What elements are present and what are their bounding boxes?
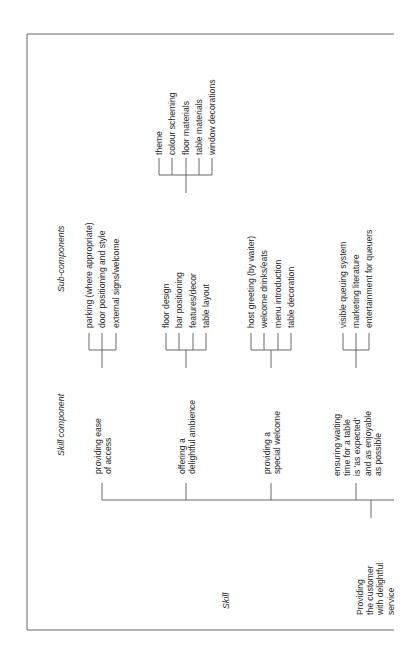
skill-breakdown-diagram: Skill component Sub-components Skill Pro… bbox=[0, 0, 418, 667]
skill-component-ambience: offering a delightful ambience bbox=[177, 400, 197, 474]
sub-component: bar positioning bbox=[174, 272, 184, 328]
skill-label: Providing the customer with delightful s… bbox=[355, 563, 396, 615]
detail-item: colour scheming bbox=[167, 92, 177, 155]
sub-component: visible queuing system bbox=[338, 242, 348, 328]
sub-component: door positioning and style bbox=[97, 231, 107, 328]
skill-component-ease-of-access: providing ease of access bbox=[93, 418, 113, 474]
sub-component: host greeting (by waiter) bbox=[246, 236, 256, 328]
sub-component: table layout bbox=[201, 284, 211, 328]
sub-component: marketing literature bbox=[351, 254, 361, 328]
sub-component: entertainment for queuers bbox=[364, 230, 374, 328]
sub-component: menu introduction bbox=[273, 260, 283, 328]
sub-component: parking (where appropriate) bbox=[84, 222, 94, 328]
header-sub-components: Sub-components bbox=[56, 225, 66, 292]
sub-component: table decoration bbox=[286, 267, 296, 328]
skill-component-waiting-time: ensuring waiting time for a table is 'as… bbox=[332, 411, 383, 476]
sub-component: floor design bbox=[161, 284, 171, 328]
detail-item: table materials bbox=[194, 99, 204, 155]
header-skill-component: Skill component bbox=[56, 394, 66, 456]
detail-item: theme bbox=[154, 131, 164, 155]
header-skill: Skill bbox=[221, 593, 231, 609]
sub-component: external signs/welcome bbox=[111, 239, 121, 328]
sub-component: welcome drinks/eats bbox=[259, 250, 269, 328]
sub-component: features/decor bbox=[188, 273, 198, 328]
skill-component-welcome: providing a special welcome bbox=[262, 411, 282, 474]
detail-item: window decorations bbox=[207, 80, 217, 155]
detail-item: floor materials bbox=[181, 101, 191, 155]
